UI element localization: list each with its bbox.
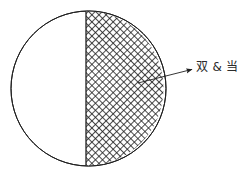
figure-container: 双 & 当 (0, 0, 238, 174)
circle-diagram (0, 0, 238, 174)
annotation-label: 双 & 当 (196, 60, 238, 74)
circle-body (11, 11, 166, 166)
